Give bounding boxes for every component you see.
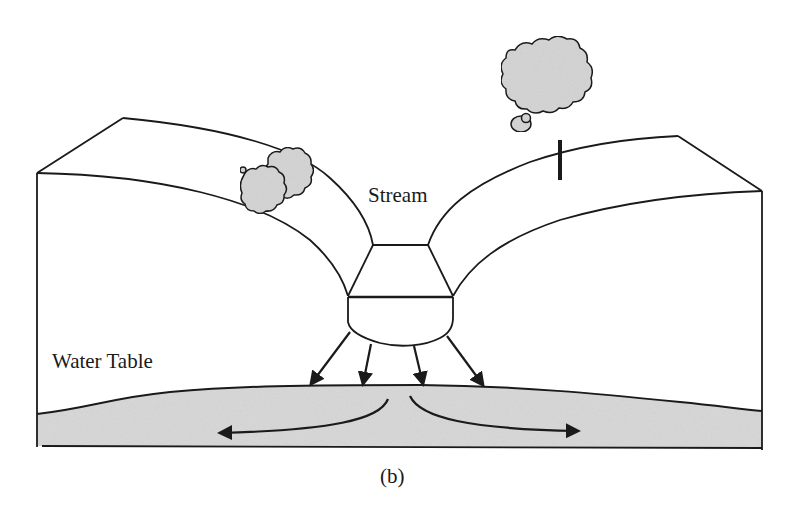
infiltration-arrow-1 — [311, 332, 350, 384]
stream-right-bank-slope — [428, 245, 453, 296]
right-back-edge — [678, 136, 762, 191]
infiltration-arrow-3 — [414, 346, 423, 384]
losing-stream-diagram: Stream Water Table (b) — [0, 0, 803, 513]
right-bank-upper-surface — [428, 136, 678, 245]
panel-label: (b) — [380, 464, 405, 488]
infiltration-arrow-4 — [447, 336, 483, 385]
water-table-label: Water Table — [52, 349, 153, 373]
right-bank-lower-surface — [453, 191, 762, 296]
tree-icon — [501, 36, 592, 132]
stream-bed — [348, 297, 453, 346]
stream-left-bank-slope — [348, 245, 373, 296]
infiltration-arrow-2 — [363, 344, 371, 384]
left-back-edge — [37, 118, 123, 173]
shrub-icon — [240, 148, 314, 214]
stream-label: Stream — [368, 183, 427, 207]
